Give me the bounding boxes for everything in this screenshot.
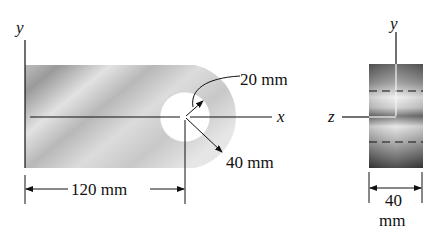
side-view: y x 20 mm 40 mm 120 mm (14, 18, 288, 204)
x-axis-label: x (276, 107, 285, 126)
outer-radius-label: 40 mm (226, 153, 274, 172)
end-z-axis-label: z (327, 107, 335, 126)
end-y-axis-label: y (388, 14, 398, 33)
inner-radius-label: 20 mm (240, 70, 288, 89)
length-label: 120 mm (71, 180, 127, 199)
thickness-unit-label: mm (379, 211, 405, 230)
diagram-canvas: y x 20 mm 40 mm 120 mm y z (0, 0, 448, 237)
y-axis-label: y (14, 18, 24, 37)
thickness-value-label: 40 (385, 191, 402, 210)
end-view: y z 40 mm (327, 14, 423, 230)
